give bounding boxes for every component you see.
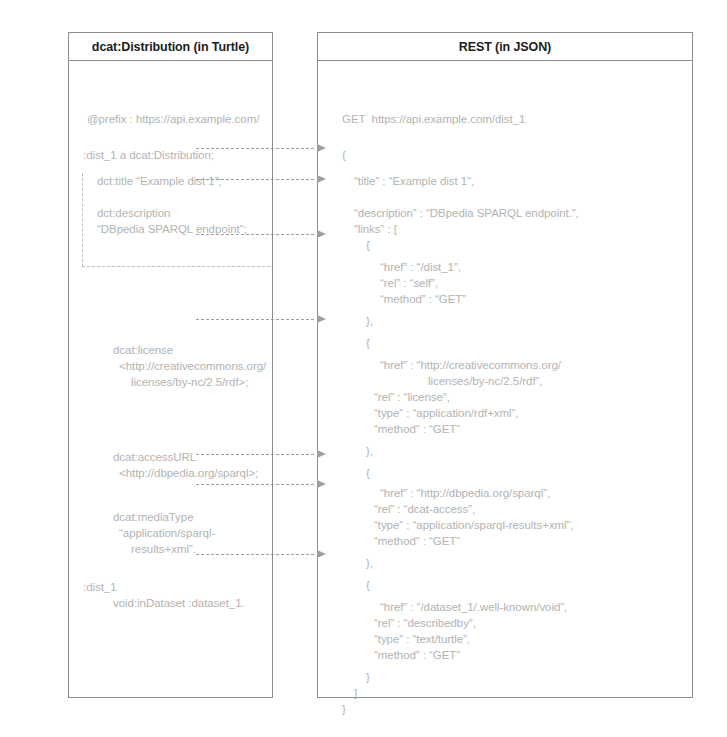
access-url-mapping-arrow: [196, 450, 326, 459]
turtle-code-line: dcat:license: [113, 344, 173, 357]
arrow-head-icon: [317, 550, 326, 558]
turtle-code-line: @prefix : https://api.example.com/: [87, 113, 259, 126]
json-code-line: “href” : “http://creativecommons.org/: [380, 359, 561, 372]
json-code-line: {: [366, 467, 370, 480]
json-code-line: “type” : “application/rdf+xml”,: [374, 407, 519, 420]
json-code-line: {: [342, 149, 346, 162]
turtle-code-line: “application/sparql-: [119, 527, 215, 540]
turtle-code-line: :dist_1: [83, 581, 117, 594]
json-code-line: “method” : “GET”: [374, 649, 460, 662]
rest-json-panel-title: REST (in JSON): [459, 40, 551, 54]
turtle-code-line: dct:description: [97, 207, 170, 220]
json-code-line: ]: [354, 687, 357, 700]
json-code-line: “rel” : “describedby”,: [374, 617, 476, 630]
json-code-line: “href” : “http://dbpedia.org/sparql”,: [380, 487, 550, 500]
turtle-code-line: void:inDataset :dataset_1.: [113, 597, 245, 610]
rest-json-panel-header: REST (in JSON): [318, 33, 692, 61]
turtle-code-line: dcat:mediaType: [113, 511, 194, 524]
turtle-code-line: :dist_1 a dcat:Distribution;: [83, 149, 214, 162]
json-code-line: “links” : [: [354, 223, 397, 236]
arrow-shaft: [196, 148, 314, 149]
turtle-panel-header: dcat:Distribution (in Turtle): [69, 33, 272, 61]
json-code-line: {: [366, 579, 370, 592]
json-code-line: },: [366, 315, 373, 328]
json-code-line: },: [366, 445, 373, 458]
turtle-code-line: results+xml”.: [131, 543, 196, 556]
arrow-shaft: [196, 454, 314, 455]
arrow-shaft: [196, 234, 314, 235]
json-code-line: {: [366, 239, 370, 252]
turtle-panel: dcat:Distribution (in Turtle) @prefix : …: [68, 32, 273, 698]
json-code-line: “type” : “application/sparql-results+xml…: [374, 519, 574, 532]
title-mapping-arrow: [196, 144, 326, 153]
rest-json-panel-body: GET https://api.example.com/dist_1{“titl…: [318, 61, 692, 697]
rest-json-panel: REST (in JSON) GET https://api.example.c…: [317, 32, 693, 698]
turtle-code-line: <http://dbpedia.org/sparql>;: [119, 467, 258, 480]
json-code-line: “rel” : “license”,: [374, 391, 450, 404]
arrow-head-icon: [317, 175, 326, 183]
json-code-line: GET https://api.example.com/dist_1: [342, 113, 525, 126]
turtle-code-line: dcat:accessURL: [113, 451, 196, 464]
json-code-line: {: [366, 337, 370, 350]
arrow-head-icon: [317, 480, 326, 488]
turtle-code-line: licenses/by-nc/2.5/rdf>;: [131, 376, 248, 389]
turtle-code-line: <http://creativecommons.org/: [119, 360, 266, 373]
json-code-line: “href” : “/dist_1”,: [380, 261, 461, 274]
json-code-line: “method” : “GET”: [380, 293, 466, 306]
json-code-line: “title” : “Example dist 1”,: [354, 175, 474, 188]
group-mapping-arrow: [196, 230, 326, 239]
turtle-panel-title: dcat:Distribution (in Turtle): [92, 40, 249, 54]
license-mapping-arrow: [196, 315, 326, 324]
arrow-head-icon: [317, 450, 326, 458]
arrow-head-icon: [317, 230, 326, 238]
json-code-line: “href” : “/dataset_1/.well-known/void”,: [380, 601, 567, 614]
description-mapping-arrow: [196, 175, 326, 184]
json-code-line: },: [366, 557, 373, 570]
arrow-head-icon: [317, 315, 326, 323]
arrow-shaft: [196, 179, 314, 180]
json-code-line: “description” : “DBpedia SPARQL endpoint…: [354, 207, 579, 220]
json-code-line: “type” : “text/turtle”,: [374, 633, 470, 646]
json-code-line: “rel” : “self”,: [380, 277, 438, 290]
json-code-line: }: [366, 671, 370, 684]
json-code-line: }: [342, 703, 346, 716]
in-dataset-mapping-arrow: [196, 550, 326, 559]
json-code-line: “method” : “GET”: [374, 423, 460, 436]
json-code-line: licenses/by-nc/2.5/rdf”,: [428, 375, 543, 388]
arrow-shaft: [196, 484, 314, 485]
turtle-panel-body: @prefix : https://api.example.com/:dist_…: [69, 61, 272, 697]
arrow-shaft: [196, 319, 314, 320]
arrow-shaft: [196, 554, 314, 555]
json-code-line: “method” : “GET”: [374, 535, 460, 548]
media-type-mapping-arrow: [196, 480, 326, 489]
json-code-line: “rel” : “dcat-access”,: [374, 503, 475, 516]
arrow-head-icon: [317, 144, 326, 152]
